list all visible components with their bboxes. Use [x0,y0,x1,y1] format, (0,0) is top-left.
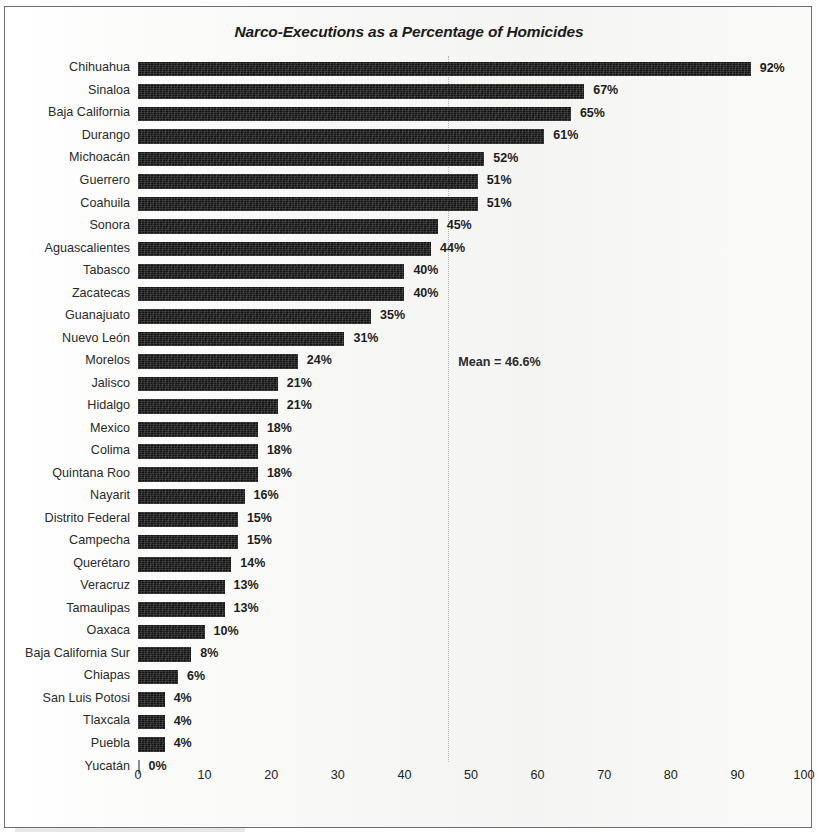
x-tick-label: 80 [664,768,678,782]
category-label: Sonora [89,218,130,232]
category-label: Querétaro [73,556,130,570]
bar [138,647,191,662]
bar-value-label: 51% [487,173,512,187]
bar-row: Mexico18% [138,418,804,441]
bar-value-label: 35% [380,308,405,322]
bar [138,129,544,144]
bar [138,737,165,752]
bar-row: Chiapas6% [138,666,804,689]
category-label: Colima [91,443,130,457]
bar-value-label: 8% [200,646,218,660]
bar-value-label: 14% [240,556,265,570]
bar-row: Guerrero51% [138,171,804,194]
bar-row: Baja California Sur8% [138,644,804,667]
bar-value-label: 13% [234,578,259,592]
bar-value-label: 40% [413,263,438,277]
category-label: Tamaulipas [66,601,130,615]
bar-row: Michoacán52% [138,148,804,171]
bar-value-label: 51% [487,196,512,210]
bar [138,152,484,167]
bar-row: Colima18% [138,441,804,464]
bar-row: Puebla4% [138,734,804,757]
category-label: Guanajuato [65,308,130,322]
bar-row: San Luis Potosi4% [138,689,804,712]
category-label: Chihuahua [69,60,130,74]
category-label: Tlaxcala [83,713,130,727]
category-label: Campecha [69,533,130,547]
bar [138,512,238,527]
category-label: Coahuila [80,196,130,210]
bar [138,602,225,617]
bar-row: Chihuahua92% [138,58,804,81]
category-label: San Luis Potosi [42,691,130,705]
bar-value-label: 92% [760,61,785,75]
figure-frame: Narco-Executions as a Percentage of Homi… [4,6,812,828]
category-label: Tabasco [83,263,130,277]
bar [138,399,278,414]
bar [138,467,258,482]
bar-value-label: 65% [580,106,605,120]
bar [138,354,298,369]
category-label: Yucatán [84,759,130,773]
bar-value-label: 15% [247,533,272,547]
x-tick-label: 50 [464,768,478,782]
bar [138,535,238,550]
bar-value-label: 4% [174,736,192,750]
x-tick-label: 90 [730,768,744,782]
x-tick-label: 20 [264,768,278,782]
bar-row: Jalisco21% [138,373,804,396]
bar-value-label: 18% [267,466,292,480]
bar-value-label: 45% [447,218,472,232]
category-label: Guerrero [80,173,130,187]
bar-value-label: 15% [247,511,272,525]
bar [138,309,371,324]
bar [138,422,258,437]
bar-row: Querétaro14% [138,553,804,576]
category-label: Nuevo León [62,331,130,345]
category-label: Nayarit [90,488,130,502]
category-label: Chiapas [84,668,130,682]
bar [138,242,431,257]
bar-value-label: 61% [553,128,578,142]
bar-row: Distrito Federal15% [138,508,804,531]
bar-row: Tabasco40% [138,261,804,284]
bar [138,692,165,707]
bar-value-label: 31% [353,331,378,345]
bar-value-label: 67% [593,83,618,97]
bar-value-label: 16% [254,488,279,502]
category-label: Jalisco [92,376,131,390]
bar [138,557,231,572]
bar-row: Hidalgo21% [138,396,804,419]
x-tick-label: 60 [531,768,545,782]
bar [138,332,344,347]
category-label: Oaxaca [87,623,130,637]
bar [138,287,404,302]
x-tick-label: 40 [397,768,411,782]
bar-row: Zacatecas40% [138,283,804,306]
bar-row: Sinaloa67% [138,81,804,104]
plot-area: Mean = 46.6% Chihuahua92%Sinaloa67%Baja … [138,58,804,760]
category-label: Baja California Sur [25,646,130,660]
bar-value-label: 21% [287,376,312,390]
bar [138,580,225,595]
bar-row: Durango61% [138,126,804,149]
bar-value-label: 13% [234,601,259,615]
bar-row: Quintana Roo18% [138,463,804,486]
category-label: Zacatecas [72,286,130,300]
chart-title: Narco-Executions as a Percentage of Homi… [5,23,813,41]
bar-row: Baja California65% [138,103,804,126]
category-label: Hidalgo [87,398,130,412]
bar-value-label: 24% [307,353,332,367]
bar-row: Guanajuato35% [138,306,804,329]
bar [138,444,258,459]
bar-row: Aguascalientes44% [138,238,804,261]
bar [138,174,478,189]
bar [138,264,404,279]
category-label: Baja California [48,105,130,119]
bar [138,84,584,99]
category-label: Durango [82,128,130,142]
x-tick-label: 100 [793,768,814,782]
bar-row: Veracruz13% [138,576,804,599]
category-label: Puebla [91,736,130,750]
bar-row: Tamaulipas13% [138,598,804,621]
